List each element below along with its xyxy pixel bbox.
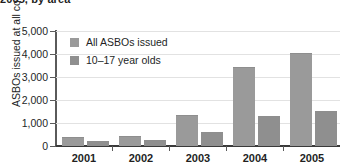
- bar-2002-series1: [119, 136, 141, 146]
- legend-item-all-asbos: All ASBOs issued: [70, 36, 168, 49]
- y-tick-label: 5,000: [0, 26, 48, 36]
- y-tick-label: 0: [0, 141, 48, 151]
- bar-2004-series2: [258, 116, 280, 146]
- y-tick-label: 4,000: [0, 49, 48, 59]
- legend-label: All ASBOs issued: [86, 37, 168, 48]
- y-tick-label: 2,000: [0, 95, 48, 105]
- chart-container: 2005, by area ASBOs issued at all courts…: [0, 0, 343, 168]
- legend-item-10-17-year-olds: 10–17 year olds: [70, 54, 168, 67]
- bar-2004-series1: [233, 67, 255, 146]
- legend-label: 10–17 year olds: [86, 55, 161, 66]
- bar-group-2003: [170, 31, 227, 146]
- legend-swatch-icon: [70, 38, 79, 47]
- bar-group-2004: [227, 31, 284, 146]
- y-tick-label: 1,000: [0, 118, 48, 128]
- bar-group-2005: [284, 31, 341, 146]
- y-axis-tick-labels: 5,000 4,000 3,000 2,000 1,000 0: [0, 0, 52, 168]
- bar-2001-series1: [62, 137, 84, 146]
- bar-2005-series1: [290, 53, 312, 146]
- bar-2003-series1: [176, 115, 198, 146]
- chart-legend: All ASBOs issued 10–17 year olds: [70, 36, 168, 72]
- x-tick-label-2004: 2004: [227, 151, 283, 165]
- bar-2002-series2: [144, 140, 166, 146]
- bar-2003-series2: [201, 132, 223, 146]
- x-tick-label-2005: 2005: [284, 151, 340, 165]
- bar-2005-series2: [315, 111, 337, 146]
- legend-swatch-icon: [70, 56, 79, 65]
- x-tick-label-2002: 2002: [113, 151, 169, 165]
- x-tick-label-2001: 2001: [56, 151, 112, 165]
- bar-2001-series2: [87, 141, 109, 146]
- x-tick-label-2003: 2003: [170, 151, 226, 165]
- y-tick-label: 3,000: [0, 72, 48, 82]
